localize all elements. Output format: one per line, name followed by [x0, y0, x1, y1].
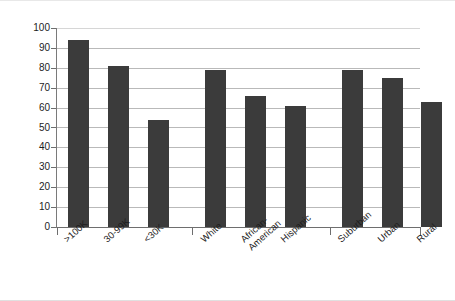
- gridline: [57, 28, 420, 29]
- y-tick-label: 40: [14, 142, 50, 152]
- y-tick-label: 70: [14, 83, 50, 93]
- y-tick-label: 90: [14, 43, 50, 53]
- bar-income-under-30k: [148, 120, 169, 228]
- y-tick-label: 10: [14, 202, 50, 212]
- x-group-separator-tick: [330, 228, 331, 235]
- bar-geo-urban: [382, 78, 403, 227]
- y-tick-label: 60: [14, 103, 50, 113]
- y-tick-label: 100: [14, 23, 50, 33]
- y-tick-label: 50: [14, 123, 50, 133]
- broadband-access-bar-chart: % with Broadband Access 100 90 80 70 60 …: [0, 0, 455, 301]
- x-group-separator-tick: [192, 228, 193, 235]
- bar-income-30-99k: [108, 66, 129, 227]
- gridline: [57, 48, 420, 49]
- x-axis-start-tick: [57, 228, 58, 235]
- bar-income-100k: [68, 40, 89, 227]
- bar-geo-suburban: [342, 70, 363, 227]
- plot-area: [57, 28, 420, 227]
- bar-race-white: [205, 70, 226, 227]
- bar-race-african-american: [245, 96, 266, 227]
- y-tick-label: 0: [14, 222, 50, 232]
- bar-geo-rural: [421, 102, 442, 227]
- y-tick-label: 80: [14, 63, 50, 73]
- y-tick-label: 20: [14, 182, 50, 192]
- bar-race-hispanic: [285, 106, 306, 227]
- y-tick-label: 30: [14, 162, 50, 172]
